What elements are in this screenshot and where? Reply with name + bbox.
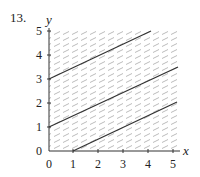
svg-text:3: 3 [36,72,42,86]
x-axis-label: x [182,143,189,158]
slope-field-plot: y x 0 1 2 3 4 5 0 1 2 3 4 5 [0,0,200,177]
svg-text:5: 5 [36,24,42,38]
svg-text:2: 2 [36,96,42,110]
y-tick-labels: 0 1 2 3 4 5 [36,24,42,158]
svg-text:0: 0 [46,157,52,171]
y-axis-label: y [44,12,52,27]
hatched-region [49,29,178,151]
svg-text:1: 1 [36,120,42,134]
svg-text:1: 1 [70,157,76,171]
svg-text:3: 3 [120,157,126,171]
x-tick-labels: 0 1 2 3 4 5 [46,157,176,171]
svg-text:2: 2 [95,157,101,171]
svg-text:4: 4 [145,157,151,171]
svg-text:4: 4 [36,48,42,62]
svg-text:5: 5 [170,157,176,171]
svg-text:0: 0 [36,144,42,158]
